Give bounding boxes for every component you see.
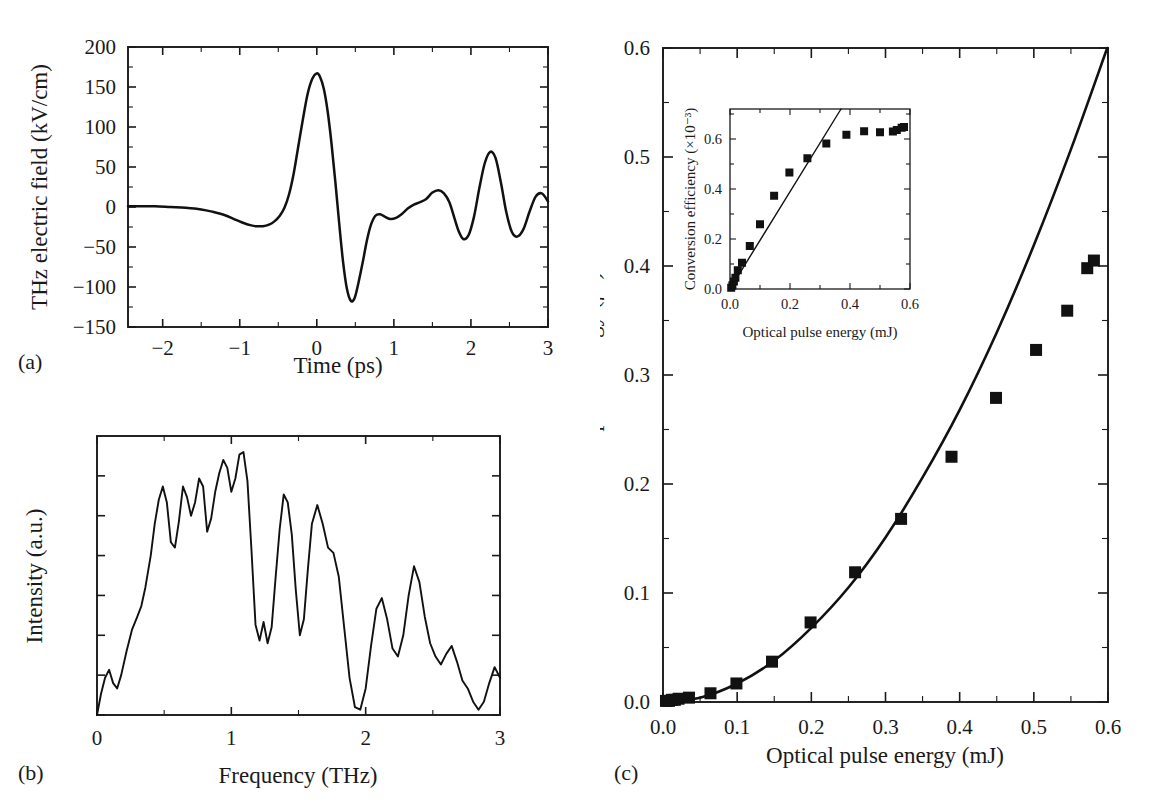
inset-data-point-marker	[785, 169, 793, 177]
panel-b-x-ticklabels: 0123	[92, 726, 506, 750]
panel-c-x-ticklabels: 0.00.10.20.30.40.50.6	[650, 715, 1121, 739]
y-ticklabel: 50	[95, 155, 116, 179]
y-ticklabel: 0.5	[624, 145, 650, 169]
inset-data-point-marker	[731, 274, 739, 282]
x-ticklabel: 0	[92, 726, 103, 750]
panel-c-label: (c)	[614, 760, 638, 786]
y-ticklabel: −50	[83, 235, 116, 259]
x-ticklabel: 0.4	[947, 715, 974, 739]
panel-a-y-ticklabels: −150−100−50050100150200	[73, 35, 116, 339]
panel-c-data-markers	[660, 255, 1100, 707]
y-ticklabel: 0.3	[624, 363, 650, 387]
data-point-marker	[895, 513, 907, 525]
y-ticklabel: 0.2	[624, 472, 650, 496]
inset-data-point-marker	[738, 259, 746, 267]
inset-x-ticklabels: 0.00.20.40.6	[721, 296, 919, 312]
inset-data-point-marker	[860, 127, 868, 135]
panel-a-axes	[128, 47, 548, 327]
x-ticklabel: 1	[226, 726, 237, 750]
panel-a-chart: −2−10123 −150−100−50050100150200 Time (p…	[0, 0, 600, 400]
inset-data-point-marker	[770, 192, 778, 200]
y-ticklabel: −150	[73, 315, 116, 339]
y-ticklabel: 200	[85, 35, 117, 59]
panel-a-y-ticks	[128, 47, 548, 327]
x-ticklabel: 0.6	[901, 296, 919, 312]
inset-y-ticklabels: 0.00.20.40.6	[704, 131, 723, 297]
data-point-marker	[849, 566, 861, 578]
y-ticklabel: 0.6	[624, 36, 650, 60]
x-ticklabel: 0.0	[721, 296, 739, 312]
y-ticklabel: 0.1	[624, 581, 650, 605]
data-point-marker	[805, 616, 817, 628]
y-ticklabel: 100	[85, 115, 117, 139]
data-point-marker	[683, 692, 695, 704]
thz-spectrum-curve	[97, 452, 500, 715]
y-ticklabel: 0.6	[704, 131, 722, 147]
panel-a-label: (a)	[18, 349, 42, 375]
panel-c-chart: 0.00.10.20.30.40.50.6 0.00.10.20.30.40.5…	[600, 20, 1158, 810]
panel-c-y-ticklabels: 0.00.10.20.30.40.50.6	[624, 36, 651, 714]
panel-c-ylabel: THz pulse energy (µJ)	[600, 272, 604, 478]
y-ticklabel: 0	[106, 195, 117, 219]
data-point-marker	[946, 451, 958, 463]
x-ticklabel: 0.2	[781, 296, 799, 312]
y-ticklabel: 0.0	[624, 690, 650, 714]
x-ticklabel: −1	[229, 336, 251, 360]
x-ticklabel: 0.5	[1021, 715, 1047, 739]
inset-data-point-marker	[822, 140, 830, 148]
panel-c-xlabel: Optical pulse energy (mJ)	[766, 743, 1004, 768]
inset-data-point-marker	[876, 128, 884, 136]
x-ticklabel: 2	[466, 336, 477, 360]
x-ticklabel: 0.6	[1095, 715, 1121, 739]
y-ticklabel: −100	[73, 275, 116, 299]
data-point-marker	[1088, 255, 1100, 267]
x-ticklabel: −2	[152, 336, 174, 360]
inset-data-point-marker	[803, 154, 811, 162]
x-ticklabel: 3	[495, 726, 506, 750]
panel-c-inset: 0.00.20.40.6 0.00.20.40.6 Optical pulse …	[682, 108, 919, 341]
panel-b-label: (b)	[18, 760, 44, 786]
panel-b-frame	[97, 436, 500, 715]
panel-a-ylabel: THz electric field (kV/cm)	[27, 64, 52, 310]
x-ticklabel: 0.3	[872, 715, 898, 739]
inset-ylabel: Conversion efficiency (×10⁻³)	[682, 108, 699, 290]
inset-data-point-marker	[746, 242, 754, 250]
panel-a-xlabel: Time (ps)	[293, 353, 382, 378]
inset-data-point-marker	[756, 220, 764, 228]
x-ticklabel: 0.2	[798, 715, 824, 739]
data-point-marker	[730, 677, 742, 689]
panel-a-frame	[128, 47, 548, 327]
panel-b-x-ticks	[97, 436, 500, 715]
y-ticklabel: 0.4	[704, 181, 723, 197]
panel-b-axes	[97, 436, 500, 715]
panel-a-x-ticks	[163, 47, 548, 327]
x-ticklabel: 0.1	[724, 715, 750, 739]
data-point-marker	[990, 392, 1002, 404]
inset-data-point-marker	[900, 123, 908, 131]
data-point-marker	[704, 687, 716, 699]
inset-data-point-marker	[734, 266, 742, 274]
data-point-marker	[766, 656, 778, 668]
data-point-marker	[673, 693, 685, 705]
panel-b-ylabel: Intensity (a.u.)	[22, 509, 47, 644]
inset-data-point-marker	[842, 131, 850, 139]
y-ticklabel: 150	[85, 75, 117, 99]
x-ticklabel: 2	[360, 726, 371, 750]
x-ticklabel: 3	[543, 336, 554, 360]
panel-b-xlabel: Frequency (THz)	[218, 763, 377, 788]
y-ticklabel: 0.4	[624, 254, 651, 278]
data-point-marker	[1030, 344, 1042, 356]
panel-b-chart: 0123 Frequency (THz) Intensity (a.u.)	[0, 400, 600, 810]
y-ticklabel: 0.0	[704, 281, 722, 297]
x-ticklabel: 0.4	[841, 296, 860, 312]
y-ticklabel: 0.2	[704, 231, 722, 247]
x-ticklabel: 1	[389, 336, 400, 360]
inset-xlabel: Optical pulse energy (mJ)	[742, 324, 897, 341]
thz-waveform-curve	[128, 73, 548, 301]
figure-container: −2−10123 −150−100−50050100150200 Time (p…	[0, 0, 1158, 810]
x-ticklabel: 0.0	[650, 715, 676, 739]
data-point-marker	[1061, 305, 1073, 317]
